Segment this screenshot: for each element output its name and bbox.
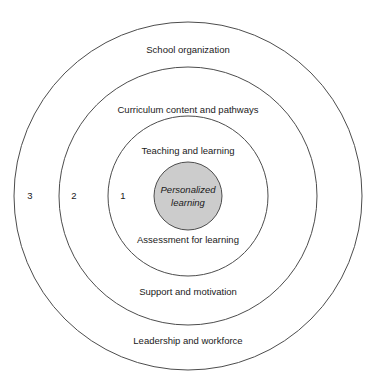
ring-3-top-label: School organization bbox=[146, 44, 229, 55]
core-label-line2: learning bbox=[171, 197, 206, 208]
ring-1-bottom-label: Assessment for learning bbox=[137, 234, 239, 245]
ring-1-top-label: Teaching and learning bbox=[142, 145, 235, 156]
ring-2-bottom-label: Support and motivation bbox=[139, 286, 237, 297]
ring-3-bottom-label: Leadership and workforce bbox=[133, 335, 242, 346]
ring-number-3: 3 bbox=[27, 190, 32, 201]
diagram-canvas: School organization Leadership and workf… bbox=[0, 0, 373, 391]
ring-number-1: 1 bbox=[120, 190, 125, 201]
ring-2-top-label: Curriculum content and pathways bbox=[118, 104, 259, 115]
concentric-circles-diagram: School organization Leadership and workf… bbox=[0, 0, 373, 391]
ring-number-2: 2 bbox=[71, 190, 76, 201]
core-label-line1: Personalized bbox=[161, 184, 217, 195]
